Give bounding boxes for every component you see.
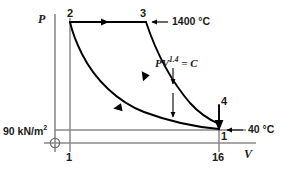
process-3-4-isentropic — [146, 22, 219, 124]
x-tick-label-16: 16 — [212, 152, 224, 163]
state-point-label-3: 3 — [140, 8, 146, 19]
state-point-label-4: 4 — [221, 96, 227, 107]
direction-arrow-1-2-icon — [113, 103, 122, 111]
x-tick-label-1: 1 — [66, 152, 72, 163]
equation-exponent: 1.4 — [169, 55, 178, 64]
pressure-tick-value: 90 kN/m — [3, 125, 43, 137]
pressure-tick-exponent: 2 — [43, 124, 47, 131]
callout-group — [152, 22, 243, 130]
direction-arrow-2-3-icon — [101, 19, 109, 26]
annotation-bottom-temperature: 40 °C — [248, 124, 274, 135]
direction-arrow-group — [101, 19, 223, 131]
y-axis-label: P — [38, 13, 45, 25]
x-axis-label: V — [244, 148, 252, 160]
grid-group — [55, 18, 246, 152]
pressure-tick-label: 90 kN/m2 — [3, 124, 47, 136]
pv-diagram-figure: P V 2 3 4 1 1400 °C 40 °C 90 kN/m2 PV1.4… — [0, 0, 295, 175]
state-point-label-1: 1 — [221, 131, 227, 142]
direction-arrow-3-4-icon — [141, 71, 150, 82]
state-point-label-2: 2 — [67, 8, 73, 19]
annotation-isentropic-equation: PV1.4 = C — [155, 56, 198, 69]
annotation-top-temperature: 1400 °C — [172, 16, 210, 27]
equation-base: PV — [155, 57, 169, 69]
equation-tail: = C — [181, 57, 197, 69]
